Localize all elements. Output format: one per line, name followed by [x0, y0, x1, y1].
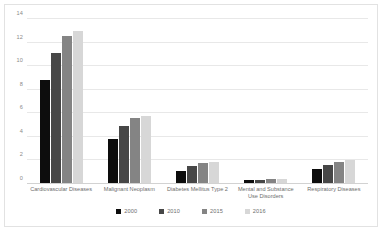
legend-label: 2010	[167, 208, 180, 214]
y-axis-tick-label: 2	[20, 151, 23, 157]
y-axis-tick-label: 8	[20, 81, 23, 87]
bar-group	[163, 19, 231, 184]
bar	[119, 126, 129, 184]
legend-swatch-icon	[245, 209, 250, 214]
chart-legend: 2000201020152016	[5, 208, 377, 214]
bar	[108, 139, 118, 184]
bar-group	[27, 19, 95, 184]
x-axis-category-label: Respiratory Diseases	[300, 186, 368, 201]
legend-swatch-icon	[159, 209, 164, 214]
bar	[198, 163, 208, 184]
chart-card: 02468101214 Cardiovascular DiseasesMalig…	[4, 4, 378, 227]
bar	[209, 162, 219, 184]
bar-group	[232, 19, 300, 184]
y-axis-tick-label: 6	[20, 104, 23, 110]
bar	[141, 116, 151, 184]
bar	[187, 166, 197, 184]
plot-area: 02468101214	[27, 19, 368, 184]
legend-item[interactable]: 2016	[245, 208, 266, 214]
x-axis-category-label: Mental and Substance Use Disorders	[232, 186, 300, 201]
bar	[62, 36, 72, 185]
y-axis-tick-label: 12	[17, 34, 23, 40]
x-axis-category-label: Cardiovascular Diseases	[27, 186, 95, 201]
x-axis-category-labels: Cardiovascular DiseasesMalignant Neoplas…	[27, 186, 368, 201]
legend-label: 2016	[253, 208, 266, 214]
legend-item[interactable]: 2010	[159, 208, 180, 214]
legend-item[interactable]: 2000	[116, 208, 137, 214]
bar	[130, 118, 140, 184]
bar	[334, 162, 344, 184]
bar	[323, 165, 333, 184]
legend-swatch-icon	[202, 209, 207, 214]
x-axis-category-label: Malignant Neoplasm	[95, 186, 163, 201]
y-axis-tick-label: 0	[20, 175, 23, 181]
y-axis-tick-label: 10	[17, 57, 23, 63]
x-axis-line	[27, 183, 368, 184]
bar-group	[95, 19, 163, 184]
bar	[51, 53, 61, 184]
y-axis-tick-label: 14	[17, 10, 23, 16]
legend-label: 2000	[124, 208, 137, 214]
bar	[345, 160, 355, 184]
bar-group	[300, 19, 368, 184]
bar-groups	[27, 19, 368, 184]
bar	[73, 31, 83, 184]
legend-item[interactable]: 2015	[202, 208, 223, 214]
legend-swatch-icon	[116, 209, 121, 214]
x-axis-category-label: Diabetes Mellitus Type 2	[163, 186, 231, 201]
bar	[40, 80, 50, 184]
bar	[312, 169, 322, 184]
legend-label: 2015	[210, 208, 223, 214]
y-axis-tick-label: 4	[20, 128, 23, 134]
